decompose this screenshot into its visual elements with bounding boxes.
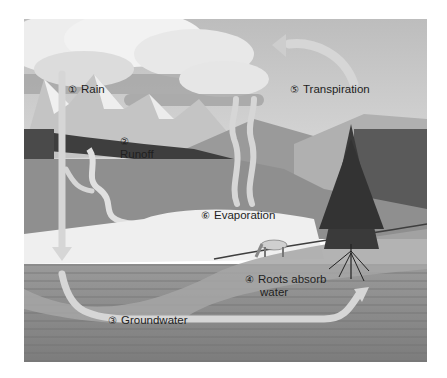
label-transpiration: ⑤Transpiration [290, 83, 370, 96]
label-roots-absorb-water: ④Roots absorb water [245, 273, 326, 299]
label-runoff: ② Runoff [120, 135, 154, 161]
illustration-canvas [24, 19, 427, 362]
label-groundwater: ③Groundwater [108, 314, 187, 327]
water-cycle-illustration: ①Rain ② Runoff ⑤Transpiration ⑥Evaporati… [24, 19, 427, 362]
label-evaporation: ⑥Evaporation [201, 209, 275, 222]
label-rain: ①Rain [68, 83, 105, 96]
